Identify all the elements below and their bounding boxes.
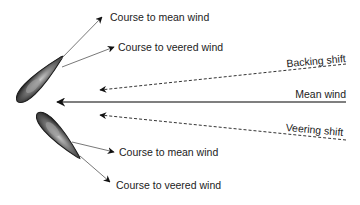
bottom-course-veered-label: Course to veered wind (116, 179, 221, 191)
top-course-veered-label: Course to veered wind (118, 41, 223, 53)
backing-shift-arrow (100, 64, 346, 90)
top-course-mean-arrow (60, 17, 102, 60)
bottom-course-mean-label: Course to mean wind (119, 146, 218, 158)
bottom-course-mean-arrow (72, 142, 114, 152)
mean-wind-label: Mean wind (295, 88, 346, 100)
top-boat-icon (12, 51, 68, 107)
veering-shift-label: Veering shift (285, 121, 344, 138)
bottom-course-veered-arrow (80, 156, 110, 182)
wind-shift-diagram: Course to mean wind Course to veered win… (0, 0, 360, 205)
backing-shift-label: Backing shift (286, 52, 346, 69)
top-course-mean-label: Course to mean wind (110, 11, 209, 23)
bottom-boat-icon (32, 108, 85, 163)
